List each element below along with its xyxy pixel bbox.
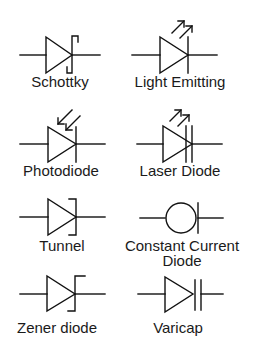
- varicap-label: Varicap: [153, 319, 203, 336]
- photodiode-label: Photodiode: [23, 162, 99, 179]
- constant-current-diode-icon: [140, 203, 223, 233]
- photodiode-icon: [20, 110, 105, 162]
- laser-diode-icon: [137, 110, 222, 162]
- constant-current-label-line2: Diode: [162, 252, 201, 269]
- diode-symbols-diagram: Schottky Light Emitting Photodiode Lase: [0, 0, 260, 354]
- led-icon: [132, 21, 217, 73]
- tunnel-label: Tunnel: [39, 237, 84, 254]
- laser-diode-label: Laser Diode: [140, 162, 221, 179]
- schottky-label: Schottky: [31, 73, 89, 90]
- schottky-diode-icon: [20, 36, 100, 73]
- led-label: Light Emitting: [135, 73, 226, 90]
- zener-label: Zener diode: [17, 319, 97, 336]
- varicap-icon: [138, 277, 223, 312]
- zener-diode-icon: [20, 276, 105, 311]
- tunnel-diode-icon: [20, 199, 105, 235]
